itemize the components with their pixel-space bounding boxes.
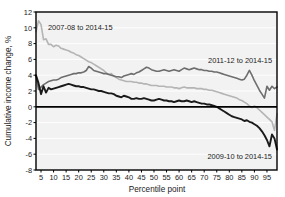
x-tick-label: 15 <box>62 173 70 182</box>
figure-container: -8-6-4-2024681012 5101520253035404550556… <box>0 0 285 197</box>
cropped-header-text <box>0 0 285 5</box>
line-chart: -8-6-4-2024681012 5101520253035404550556… <box>0 0 285 197</box>
x-tick-label: 10 <box>49 173 57 182</box>
x-tick-label: 20 <box>75 173 83 182</box>
series-label-1: 2007-08 to 2014-15 <box>48 23 113 32</box>
y-tick-label: -6 <box>25 150 32 159</box>
y-tick-label: 6 <box>28 55 32 64</box>
y-tick-label: -4 <box>25 134 32 143</box>
x-tick-label: 90 <box>250 173 258 182</box>
y-axis-title: Cumulative income change, % <box>4 36 13 147</box>
x-tick-label: 55 <box>162 173 170 182</box>
x-tick-label: 50 <box>150 173 158 182</box>
x-axis-ticks: 5101520253035404550556065707580859095 <box>39 170 271 182</box>
x-axis-title: Percentile point <box>129 185 186 194</box>
y-tick-label: 0 <box>28 103 32 112</box>
y-tick-label: 4 <box>28 71 32 80</box>
x-tick-label: 60 <box>175 173 183 182</box>
x-tick-label: 35 <box>112 173 120 182</box>
x-tick-label: 5 <box>39 173 43 182</box>
x-tick-label: 25 <box>87 173 95 182</box>
x-tick-label: 40 <box>125 173 133 182</box>
x-tick-label: 80 <box>225 173 233 182</box>
y-tick-label: 8 <box>28 39 32 48</box>
y-tick-label: 12 <box>24 8 32 17</box>
series-label-2: 2011-12 to 2014-15 <box>208 56 272 65</box>
x-tick-label: 85 <box>238 173 246 182</box>
x-tick-label: 75 <box>213 173 221 182</box>
y-tick-label: 10 <box>24 24 32 33</box>
x-tick-label: 45 <box>137 173 145 182</box>
x-tick-label: 70 <box>200 173 208 182</box>
y-axis-ticks: -8-6-4-2024681012 <box>24 8 36 175</box>
x-tick-label: 30 <box>100 173 108 182</box>
x-tick-label: 65 <box>188 173 196 182</box>
y-tick-label: -2 <box>25 118 32 127</box>
series-label-3: 2009-10 to 2014-15 <box>207 152 272 161</box>
y-tick-label: -8 <box>25 166 32 175</box>
y-tick-label: 2 <box>28 87 32 96</box>
x-tick-label: 95 <box>263 173 271 182</box>
